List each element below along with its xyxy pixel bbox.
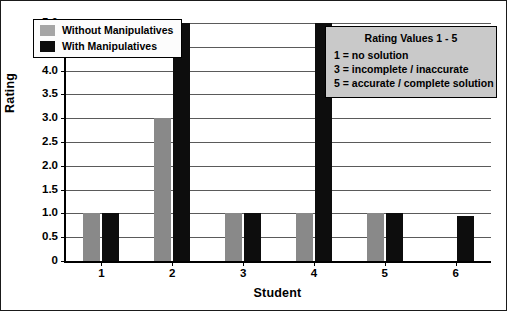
y-tick-label: 3.5: [42, 89, 58, 101]
x-tick-label: 5: [382, 268, 388, 280]
y-tick-label: 2.0: [42, 160, 58, 172]
y-tick-label: 1.0: [42, 208, 58, 220]
chart-legend: Without Manipulatives With Manipulatives: [33, 19, 182, 58]
x-tick-mark: [385, 261, 386, 266]
legend-item-with: With Manipulatives: [40, 41, 173, 52]
x-tick-mark: [101, 261, 102, 266]
x-tick-label: 3: [240, 268, 246, 280]
legend-item-without: Without Manipulatives: [40, 25, 173, 36]
rating-values-note: Rating Values 1 - 5 1 = no solution 3 = …: [325, 26, 497, 98]
bar-chart-screenshot: Rating 00.51.01.52.02.53.03.54.04.55.012…: [0, 0, 507, 311]
rating-note-line-2: 3 = incomplete / inaccurate: [334, 62, 488, 76]
y-tick-label: 2.5: [42, 136, 58, 148]
y-tick-label: 3.0: [42, 112, 58, 124]
x-tick-label: 2: [169, 268, 175, 280]
y-tick-mark: [61, 261, 66, 262]
y-axis-title: Rating: [3, 73, 17, 113]
legend-swatch-black-icon: [40, 41, 55, 52]
x-tick-mark: [456, 261, 457, 266]
x-tick-label: 6: [452, 268, 458, 280]
x-tick-label: 4: [311, 268, 317, 280]
legend-swatch-gray-icon: [40, 25, 55, 36]
rating-note-title: Rating Values 1 - 5: [334, 32, 488, 45]
y-tick-label: 0.5: [42, 231, 58, 243]
x-tick-label: 1: [98, 268, 104, 280]
y-tick-label: 1.5: [42, 184, 58, 196]
bar: [457, 216, 474, 261]
x-tick-mark: [243, 261, 244, 266]
x-tick-mark: [314, 261, 315, 266]
legend-label-with: With Manipulatives: [62, 41, 157, 52]
rating-note-line-3: 5 = accurate / complete solution: [334, 76, 488, 90]
y-tick-label: 4.0: [42, 65, 58, 77]
rating-note-line-1: 1 = no solution: [334, 48, 488, 62]
x-tick-mark: [172, 261, 173, 266]
legend-label-without: Without Manipulatives: [62, 25, 173, 36]
y-tick-label: 0: [52, 255, 58, 267]
x-axis-title: Student: [64, 286, 491, 300]
